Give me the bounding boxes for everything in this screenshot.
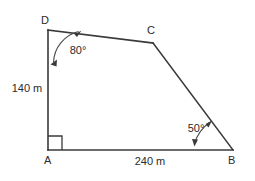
side-length-label-AD: 140 m	[12, 82, 43, 94]
geometry-canvas: D C A B 140 m 240 m 80° 50°	[0, 0, 255, 181]
vertex-label-D: D	[41, 14, 49, 26]
geometry-diagram: D C A B 140 m 240 m 80° 50°	[0, 0, 255, 181]
right-angle-marker-A	[48, 136, 62, 150]
vertex-label-B: B	[228, 154, 235, 166]
angle-arc-B-arrowhead-lower	[192, 139, 198, 147]
vertex-label-A: A	[44, 154, 52, 166]
angle-arc-B-arrowhead-upper	[206, 121, 213, 128]
angle-label-D: 80°	[70, 44, 87, 56]
vertex-label-C: C	[147, 24, 155, 36]
side-DC-line	[48, 30, 153, 43]
angle-label-B: 50°	[188, 122, 205, 134]
side-length-label-AB: 240 m	[135, 155, 166, 167]
